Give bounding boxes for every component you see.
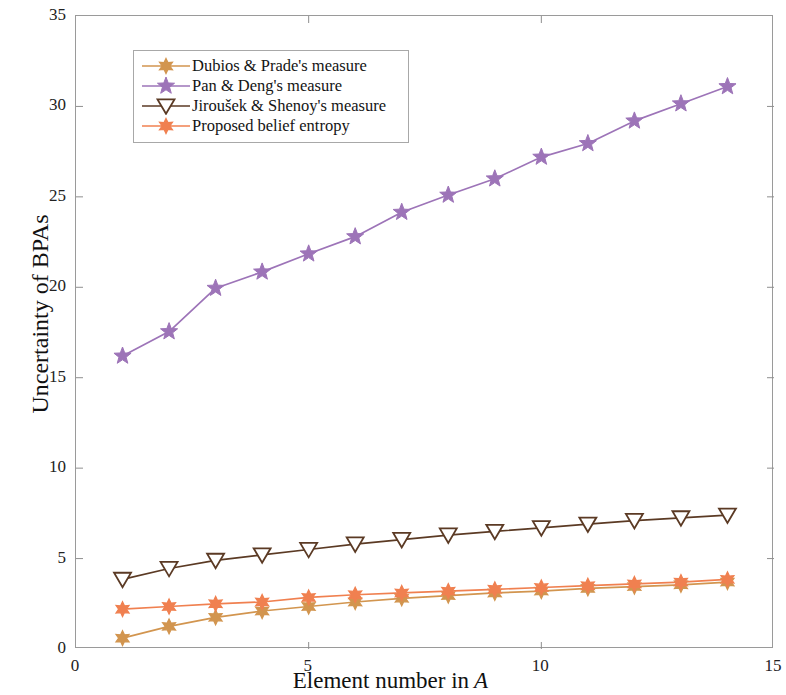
legend-label: Jiroušek & Shenoy's measure <box>192 97 386 115</box>
data-point-marker <box>114 347 131 363</box>
legend-item: Proposed belief entropy <box>140 116 400 136</box>
legend-marker-pentagram-icon <box>140 77 192 95</box>
legend-label: Dubios & Prade's measure <box>192 57 367 75</box>
data-point-marker <box>114 573 131 587</box>
data-point-marker <box>160 59 173 74</box>
data-point-marker <box>300 245 317 261</box>
legend-marker-triangle-down-icon <box>140 97 192 115</box>
legend-marker-hexagram-icon <box>140 57 192 75</box>
legend-label: Proposed belief entropy <box>192 117 350 135</box>
data-point-marker <box>533 148 550 164</box>
x-axis-title-text: Element number in <box>293 668 469 693</box>
legend-item: Pan & Deng's measure <box>140 76 400 96</box>
data-point-marker <box>160 119 173 134</box>
legend-item: Dubios & Prade's measure <box>140 56 400 76</box>
data-point-marker <box>209 596 222 611</box>
series-3 <box>116 572 734 617</box>
legend-marker-hexagram-icon <box>140 117 192 135</box>
legend-item: Jiroušek & Shenoy's measure <box>140 96 400 116</box>
series-0 <box>116 575 734 646</box>
data-point-marker <box>116 602 129 617</box>
legend: Dubios & Prade's measurePan & Deng's mea… <box>133 50 409 143</box>
data-point-marker <box>116 631 129 646</box>
data-point-marker <box>672 95 689 111</box>
data-point-marker <box>157 77 174 93</box>
data-point-marker <box>163 619 176 634</box>
legend-label: Pan & Deng's measure <box>192 77 342 95</box>
x-axis-title: Element number inA <box>0 668 781 694</box>
y-axis-title: Uncertainty of BPAs <box>26 124 54 504</box>
data-point-marker <box>347 228 364 244</box>
series-2 <box>114 509 736 588</box>
data-point-marker <box>163 599 176 614</box>
y-axis-title-container: Uncertainty of BPAs <box>0 0 40 695</box>
data-point-marker <box>719 78 736 94</box>
data-point-marker <box>579 135 596 151</box>
data-point-marker <box>440 186 457 202</box>
x-axis-title-variable: A <box>469 668 488 693</box>
data-point-marker <box>254 263 271 279</box>
data-point-marker <box>626 112 643 128</box>
data-point-marker <box>393 203 410 219</box>
data-point-marker <box>486 170 503 186</box>
